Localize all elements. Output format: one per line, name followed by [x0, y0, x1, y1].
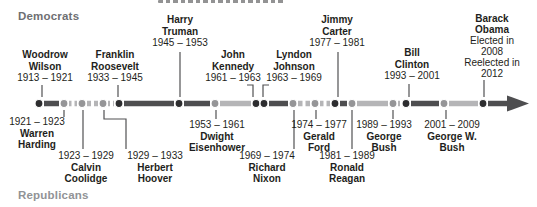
president-label-kennedy-line1: John: [221, 49, 245, 60]
president-label-ghwbush-line1: 1989 – 1993: [356, 119, 412, 130]
term-start-dot-clinton: [402, 100, 410, 108]
connector-johnson: [263, 85, 269, 97]
president-label-truman-line2: Truman: [162, 26, 198, 37]
president-label-wilson-line1: Woodrow: [22, 49, 68, 60]
president-label-ford-line1: 1974 – 1977: [291, 119, 347, 130]
term-start-dot-johnson: [260, 100, 268, 108]
president-label-clinton-line3: 1993 – 2001: [384, 70, 440, 81]
president-label-fdr-line1: Franklin: [96, 49, 135, 60]
president-label-fdr-line3: 1933 – 1945: [87, 72, 143, 83]
term-start-dot-wilson: [35, 100, 43, 108]
president-label-carter-line3: 1977 – 1981: [309, 37, 365, 48]
term-start-dot-ghwbush: [389, 100, 397, 108]
democrats-group-label: Democrats: [18, 10, 79, 22]
president-label-eisenhower-line1: 1953 – 1961: [189, 119, 245, 130]
term-start-dot-truman: [175, 100, 183, 108]
president-label-coolidge-line2: Calvin: [71, 162, 101, 173]
president-label-reagan-line3: Reagan: [329, 173, 365, 184]
president-label-carter-line1: Jimmy: [321, 14, 353, 25]
president-label-eisenhower-line3: Eisenhower: [189, 142, 245, 153]
president-label-clinton-line2: Clinton: [395, 59, 429, 70]
president-label-hoover-line3: Hoover: [138, 173, 173, 184]
connector-hoover: [104, 110, 126, 149]
president-label-nixon-line2: Richard: [248, 162, 285, 173]
term-start-dot-reagan: [348, 100, 356, 108]
president-label-truman-line3: 1945 – 1953: [152, 37, 208, 48]
president-label-truman-line1: Harry: [167, 14, 194, 25]
term-start-dot-obama: [479, 100, 487, 108]
president-label-carter-line2: Carter: [322, 26, 352, 37]
president-label-kennedy-line2: Kennedy: [212, 61, 255, 72]
president-label-obama-line5: Reelected in: [464, 57, 520, 68]
term-start-dot-hoover: [99, 100, 107, 108]
presidents-timeline-svg: WoodrowWilson1913 – 19211921 – 1923Warre…: [0, 0, 537, 207]
president-label-reagan-line1: 1981 – 1989: [319, 150, 375, 161]
term-start-dot-coolidge: [78, 100, 86, 108]
president-label-eisenhower-line2: Dwight: [200, 131, 234, 142]
president-label-johnson-line3: 1963 – 1969: [266, 72, 322, 83]
president-label-fdr-line2: Roosevelt: [91, 61, 139, 72]
president-label-johnson-line2: Johnson: [273, 61, 315, 72]
president-label-obama-line3: Elected in: [470, 35, 514, 46]
term-start-dot-harding: [60, 100, 68, 108]
president-label-coolidge-line1: 1923 – 1929: [58, 150, 114, 161]
connector-kennedy: [247, 85, 253, 97]
president-label-gwbush-line2: George W.: [427, 131, 477, 142]
president-label-clinton-line1: Bill: [404, 47, 420, 58]
president-label-nixon-line3: Nixon: [253, 173, 281, 184]
president-label-hoover-line2: Herbert: [137, 162, 173, 173]
term-start-dot-fdr: [115, 100, 123, 108]
term-start-dot-ford: [311, 100, 319, 108]
timeline-arrowhead: [507, 96, 529, 112]
president-label-gwbush-line1: 2001 – 2009: [424, 119, 480, 130]
president-label-johnson-line1: Lyndon: [276, 49, 312, 60]
cropped-title-fragment: [158, 0, 286, 3]
president-label-kennedy-line3: 1961 – 1963: [205, 72, 261, 83]
term-start-dot-kennedy: [252, 100, 260, 108]
president-label-ford-line2: Gerald: [303, 131, 335, 142]
term-start-dot-nixon: [289, 100, 297, 108]
president-label-obama-line2: Obama: [475, 24, 509, 35]
president-label-gwbush-line3: Bush: [440, 142, 465, 153]
term-start-dot-gwbush: [440, 100, 448, 108]
term-start-dot-eisenhower: [211, 100, 219, 108]
president-label-obama-line6: 2012: [481, 68, 504, 79]
presidents-timeline-infographic: Democrats Republicans WoodrowWilson1913 …: [0, 0, 537, 207]
president-label-obama-line4: 2008: [481, 46, 504, 57]
president-label-ghwbush-line3: Bush: [372, 142, 397, 153]
president-label-harding-line3: Harding: [18, 139, 56, 150]
president-label-wilson-line2: Wilson: [29, 61, 62, 72]
president-label-harding-line1: 1921 – 1923: [9, 116, 65, 127]
president-label-ghwbush-line2: George: [366, 131, 401, 142]
term-start-dot-carter: [331, 100, 339, 108]
president-label-reagan-line2: Ronald: [330, 162, 364, 173]
republicans-group-label: Republicans: [18, 189, 89, 201]
president-label-coolidge-line3: Coolidge: [65, 173, 108, 184]
president-label-nixon-line1: 1969 – 1974: [239, 150, 295, 161]
president-label-wilson-line3: 1913 – 1921: [17, 72, 73, 83]
president-label-hoover-line1: 1929 – 1933: [127, 150, 183, 161]
president-label-harding-line2: Warren: [20, 128, 54, 139]
president-label-obama-line1: Barack: [475, 13, 509, 24]
